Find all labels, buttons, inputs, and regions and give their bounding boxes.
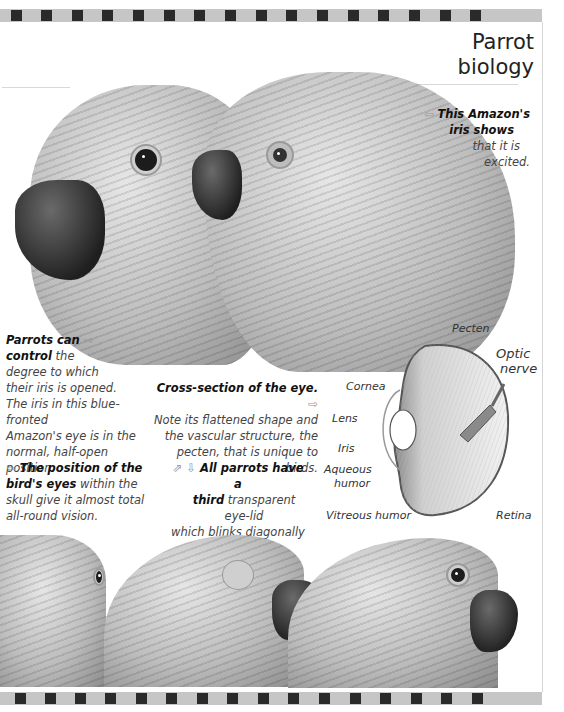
diagonal-and-down-arrow-icons: ⇗ ⇩ (172, 461, 196, 475)
stripe-square (470, 10, 481, 21)
right-arrow-icon: ⇨ (308, 397, 318, 411)
page-title: Parrot biology (458, 30, 534, 80)
stripe-square (136, 693, 147, 704)
stripe-square (194, 10, 205, 21)
label-vitreous-humor: Vitreous humor (326, 509, 411, 522)
stripe-square (164, 10, 175, 21)
stripe-square (378, 10, 389, 21)
parrot-eye-excited (268, 143, 292, 167)
label-pecten: Pecten (452, 322, 490, 335)
label-lens: Lens (332, 412, 358, 425)
stripe-square (105, 693, 116, 704)
stripe-square (411, 693, 422, 704)
stripe-square (472, 693, 483, 704)
label-optic-nerve-2: nerve (500, 361, 537, 376)
label-aqueous-1: Aqueous (324, 463, 372, 476)
stripe-square (133, 10, 144, 21)
bottom-decorative-stripe (0, 692, 542, 705)
stripe-square (227, 693, 238, 704)
title-line-1: Parrot (458, 30, 534, 55)
left-arrow-icon: ⇦ (6, 461, 16, 475)
right-arrow-icon: ⇨ (83, 333, 93, 347)
stripe-square (15, 693, 26, 704)
top-decorative-stripe (0, 9, 542, 22)
parrot-photo-back-view (0, 535, 106, 687)
stripe-square (41, 10, 52, 21)
stripe-square (258, 693, 269, 704)
left-rule (2, 87, 70, 88)
label-aqueous-2: humor (334, 477, 370, 490)
caption-iris-control: Parrots can ⇨ control the degree to whic… (6, 332, 156, 476)
stripe-square (440, 10, 451, 21)
parrot-eye-side (95, 570, 103, 584)
caption-excited-iris: ⇦ This Amazon's iris shows that it is ex… (420, 106, 530, 170)
eye-cross-section-diagram: Pecten Optic nerve Cornea Lens Iris Aque… (320, 320, 544, 530)
parrot-eye-open (448, 565, 468, 585)
stripe-square (348, 10, 359, 21)
stripe-square (197, 693, 208, 704)
stripe-square (286, 10, 297, 21)
stripe-square (409, 10, 420, 21)
parrot-eye-half-open (132, 146, 160, 174)
parrot-beak (15, 180, 105, 280)
stripe-square (380, 693, 391, 704)
label-iris: Iris (338, 442, 355, 455)
stripe-square (11, 10, 22, 21)
parrot-photo-alert (288, 538, 498, 688)
stripe-square (317, 10, 328, 21)
stripe-square (45, 693, 56, 704)
stripe-square (319, 693, 330, 704)
caption-eye-position: ⇦ The position of the bird's eyes within… (6, 460, 156, 524)
label-optic-nerve-1: Optic (496, 346, 530, 361)
stripe-square (288, 693, 299, 704)
label-retina: Retina (496, 509, 532, 522)
stripe-square (350, 693, 361, 704)
left-arrow-icon: ⇦ (424, 107, 434, 121)
stripe-square (75, 693, 86, 704)
label-cornea: Cornea (346, 380, 385, 393)
stripe-square (72, 10, 83, 21)
stripe-square (441, 693, 452, 704)
parrot-beak (470, 590, 518, 652)
stripe-square (166, 693, 177, 704)
stripe-square (102, 10, 113, 21)
parrot-eye-closed (222, 560, 254, 590)
title-line-2: biology (458, 55, 534, 80)
stripe-square (225, 10, 236, 21)
stripe-square (256, 10, 267, 21)
